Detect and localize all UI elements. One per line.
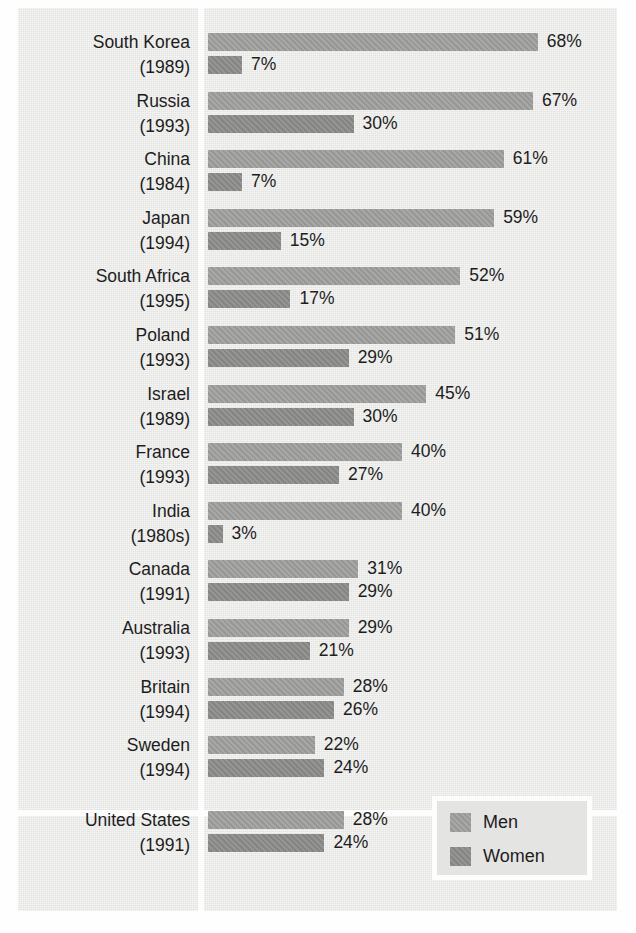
survey-year: (1993) — [18, 114, 190, 139]
bar-line-men: 59% — [208, 209, 617, 227]
bar-line-women: 21% — [208, 642, 617, 660]
bar-line-women: 26% — [208, 701, 617, 719]
bar-men — [208, 150, 504, 168]
bar-value-women: 3% — [232, 523, 257, 544]
bar-men — [208, 92, 533, 110]
bar-women — [208, 466, 339, 484]
bar-men — [208, 385, 426, 403]
bar-value-women: 21% — [319, 640, 354, 661]
bar-line-men: 51% — [208, 326, 617, 344]
chart-row: Poland(1993)51%29% — [18, 323, 617, 379]
bar-line-women: 27% — [208, 466, 617, 484]
bar-line-men: 61% — [208, 150, 617, 168]
bar-value-men: 67% — [542, 90, 577, 111]
row-bars: 31%29% — [208, 560, 617, 610]
chart-row: Australia(1993)29%21% — [18, 616, 617, 672]
row-bars: 61%7% — [208, 150, 617, 200]
legend-label-men: Men — [483, 811, 518, 834]
survey-year: (1995) — [18, 289, 190, 314]
legend-swatch-women-icon — [450, 847, 471, 866]
bar-women — [208, 583, 349, 601]
row-label: Canada(1991) — [18, 557, 190, 607]
bar-men — [208, 443, 402, 461]
bar-value-women: 29% — [358, 581, 393, 602]
row-label: Russia(1993) — [18, 89, 190, 139]
row-bars: 40%27% — [208, 443, 617, 493]
row-label: Japan(1994) — [18, 206, 190, 256]
row-bars: 22%24% — [208, 736, 617, 786]
bar-line-men: 40% — [208, 443, 617, 461]
bar-line-women: 30% — [208, 408, 617, 426]
country-name: Russia — [18, 89, 190, 114]
bar-value-men: 68% — [547, 31, 582, 52]
survey-year: (1993) — [18, 465, 190, 490]
survey-year: (1993) — [18, 641, 190, 666]
country-name: Britain — [18, 675, 190, 700]
bar-women — [208, 290, 290, 308]
bar-women — [208, 232, 281, 250]
bar-women — [208, 115, 354, 133]
row-bars: 59%15% — [208, 209, 617, 259]
chart-row: China(1984)61%7% — [18, 147, 617, 203]
bar-value-men: 29% — [358, 617, 393, 638]
row-bars: 52%17% — [208, 267, 617, 317]
row-bars: 51%29% — [208, 326, 617, 376]
survey-year: (1993) — [18, 348, 190, 373]
bar-men — [208, 560, 358, 578]
chart-row: South Africa(1995)52%17% — [18, 264, 617, 320]
legend-label-women: Women — [483, 845, 545, 868]
country-name: China — [18, 147, 190, 172]
bar-value-women: 17% — [299, 288, 334, 309]
bar-line-men: 40% — [208, 502, 617, 520]
bar-value-men: 51% — [464, 324, 499, 345]
bar-line-men: 22% — [208, 736, 617, 754]
bar-women — [208, 408, 354, 426]
row-label: South Korea(1989) — [18, 30, 190, 80]
bar-women — [208, 56, 242, 74]
chart-row: South Korea(1989)68%7% — [18, 30, 617, 86]
survey-year: (1994) — [18, 231, 190, 256]
country-name: Sweden — [18, 733, 190, 758]
bar-line-men: 31% — [208, 560, 617, 578]
row-label: China(1984) — [18, 147, 190, 197]
country-name: South Korea — [18, 30, 190, 55]
bar-value-men: 52% — [469, 265, 504, 286]
row-label: France(1993) — [18, 440, 190, 490]
row-bars: 40%3% — [208, 502, 617, 552]
country-name: France — [18, 440, 190, 465]
bar-women — [208, 349, 349, 367]
row-label: Poland(1993) — [18, 323, 190, 373]
bar-line-men: 52% — [208, 267, 617, 285]
row-bars: 45%30% — [208, 385, 617, 435]
chart-panel: South Korea(1989)68%7%Russia(1993)67%30%… — [18, 8, 617, 911]
chart-row: India(1980s)40%3% — [18, 499, 617, 555]
bar-line-men: 28% — [208, 678, 617, 696]
bar-line-women: 15% — [208, 232, 617, 250]
chart-row: Sweden(1994)22%24% — [18, 733, 617, 789]
bar-women — [208, 834, 324, 852]
survey-year: (1989) — [18, 55, 190, 80]
bar-value-men: 45% — [435, 383, 470, 404]
survey-year: (1991) — [18, 582, 190, 607]
bar-men — [208, 619, 349, 637]
country-name: Israel — [18, 382, 190, 407]
bar-line-men: 29% — [208, 619, 617, 637]
chart-row: Japan(1994)59%15% — [18, 206, 617, 262]
bar-value-men: 40% — [411, 441, 446, 462]
bar-line-men: 45% — [208, 385, 617, 403]
survey-year: (1980s) — [18, 524, 190, 549]
chart-row: Israel(1989)45%30% — [18, 382, 617, 438]
row-label: India(1980s) — [18, 499, 190, 549]
bar-value-men: 31% — [367, 558, 402, 579]
survey-year: (1989) — [18, 407, 190, 432]
bar-men — [208, 33, 538, 51]
bar-value-women: 7% — [251, 171, 276, 192]
chart-row: Canada(1991)31%29% — [18, 557, 617, 613]
row-label: United States(1991) — [18, 808, 190, 858]
bar-value-men: 22% — [324, 734, 359, 755]
legend: Men Women — [432, 796, 592, 880]
bar-men — [208, 267, 460, 285]
bar-value-women: 15% — [290, 230, 325, 251]
bar-value-women: 29% — [358, 347, 393, 368]
bar-women — [208, 642, 310, 660]
